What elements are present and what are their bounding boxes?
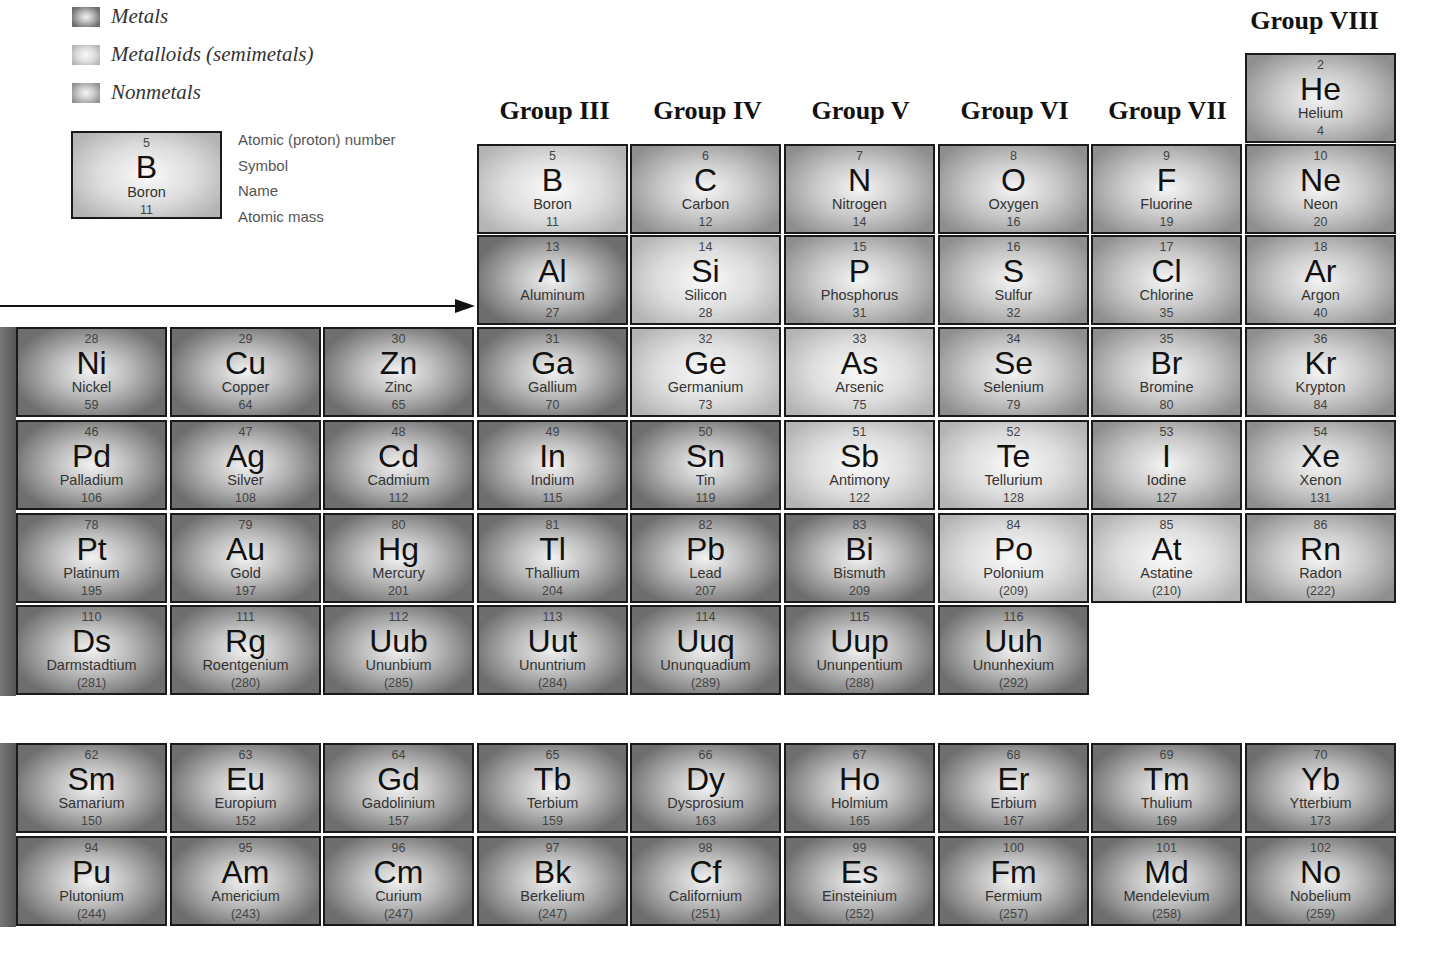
element-cell-kr: 36KrKrypton84 [1245, 327, 1396, 417]
element-name: Antimony [786, 472, 933, 488]
element-name: Carbon [632, 196, 779, 212]
symbol: As [786, 343, 933, 383]
element-name: Krypton [1247, 379, 1394, 395]
element-name: Tin [632, 472, 779, 488]
symbol: Fm [940, 852, 1087, 892]
element-name: Mendelevium [1093, 888, 1240, 904]
element-name: Chlorine [1093, 287, 1240, 303]
symbol: S [940, 251, 1087, 291]
element-name: Cadmium [325, 472, 472, 488]
element-name: Palladium [18, 472, 165, 488]
element-name: Bromine [1093, 379, 1240, 395]
symbol: No [1247, 852, 1394, 892]
atomic-mass: 16 [940, 215, 1087, 229]
element-cell-cm: 96CmCurium(247) [323, 836, 474, 926]
element-cell-uuq: 114UuqUnunquadium(289) [630, 605, 781, 695]
element-name: Ununbium [325, 657, 472, 673]
legend-item-metals: Metals [72, 4, 168, 29]
key-desc-mass: Atomic mass [238, 204, 396, 230]
element-name: Thallium [479, 565, 626, 581]
atomic-mass: 4 [1247, 124, 1394, 138]
atomic-mass: 35 [1093, 306, 1240, 320]
element-cell-eu: 63EuEuropium152 [170, 743, 321, 833]
atomic-mass: 14 [786, 215, 933, 229]
element-name: Californium [632, 888, 779, 904]
key-descriptions: Atomic (proton) number Symbol Name Atomi… [238, 127, 396, 229]
element-cell-hg: 80HgMercury201 [323, 513, 474, 603]
element-name: Neon [1247, 196, 1394, 212]
element-name: Sulfur [940, 287, 1087, 303]
symbol: Tm [1093, 759, 1240, 799]
atomic-mass: 197 [172, 584, 319, 598]
element-name: Tellurium [940, 472, 1087, 488]
symbol: Cu [172, 343, 319, 383]
element-cell-b: 5BBoron11 [477, 144, 628, 234]
element-name: Silicon [632, 287, 779, 303]
symbol: Bi [786, 529, 933, 569]
element-cell-cu: 29CuCopper64 [170, 327, 321, 417]
element-cell-as: 33AsArsenic75 [784, 327, 935, 417]
lanthanide-left-edge [0, 743, 16, 927]
element-cell-ho: 67HoHolmium165 [784, 743, 935, 833]
element-cell-te: 52TeTellurium128 [938, 420, 1089, 510]
atomic-mass: (258) [1093, 907, 1240, 921]
table-left-edge [0, 327, 16, 696]
group-header: Group IV [631, 96, 784, 126]
element-cell-rg: 111RgRoentgenium(280) [170, 605, 321, 695]
element-name: Aluminum [479, 287, 626, 303]
element-cell-cl: 17ClChlorine35 [1091, 235, 1242, 325]
element-cell-pd: 46PdPalladium106 [16, 420, 167, 510]
atomic-mass: (285) [325, 676, 472, 690]
atomic-mass: 65 [325, 398, 472, 412]
element-cell-se: 34SeSelenium79 [938, 327, 1089, 417]
element-name: Fermium [940, 888, 1087, 904]
atomic-mass: 150 [18, 814, 165, 828]
symbol: Cf [632, 852, 779, 892]
atomic-mass: (244) [18, 907, 165, 921]
element-cell-uub: 112UubUnunbium(285) [323, 605, 474, 695]
symbol: Po [940, 529, 1087, 569]
legend-label: Metalloids (semimetals) [111, 42, 313, 67]
symbol: Kr [1247, 343, 1394, 383]
element-name: Erbium [940, 795, 1087, 811]
element-cell-rn: 86RnRadon(222) [1245, 513, 1396, 603]
symbol: Si [632, 251, 779, 291]
atomic-mass: (247) [325, 907, 472, 921]
atomic-mass: (281) [18, 676, 165, 690]
element-name: Ununpentium [786, 657, 933, 673]
element-name: Ununtrium [479, 657, 626, 673]
element-cell-ag: 47AgSilver108 [170, 420, 321, 510]
element-cell-uut: 113UutUnuntrium(284) [477, 605, 628, 695]
element-cell-es: 99EsEinsteinium(252) [784, 836, 935, 926]
key-element-box: 5 B Boron 11 [71, 131, 222, 219]
atomic-mass: 112 [325, 491, 472, 505]
metals-swatch-icon [72, 7, 100, 27]
element-name: Holmium [786, 795, 933, 811]
element-cell-at: 85AtAstatine(210) [1091, 513, 1242, 603]
element-cell-yb: 70YbYtterbium173 [1245, 743, 1396, 833]
symbol: F [1093, 160, 1240, 200]
element-cell-am: 95AmAmericium(243) [170, 836, 321, 926]
element-name: Gallium [479, 379, 626, 395]
atomic-mass: 165 [786, 814, 933, 828]
element-cell-ni: 28NiNickel59 [16, 327, 167, 417]
atomic-mass: 169 [1093, 814, 1240, 828]
symbol: Md [1093, 852, 1240, 892]
element-name: Europium [172, 795, 319, 811]
group-header: Group VI [938, 96, 1091, 126]
symbol: Pt [18, 529, 165, 569]
element-name: Nobelium [1247, 888, 1394, 904]
symbol: Br [1093, 343, 1240, 383]
element-cell-tl: 81TlThallium204 [477, 513, 628, 603]
atomic-mass: (252) [786, 907, 933, 921]
element-name: Germanium [632, 379, 779, 395]
element-cell-bk: 97BkBerkelium(247) [477, 836, 628, 926]
symbol: B [479, 160, 626, 200]
atomic-mass: 127 [1093, 491, 1240, 505]
element-cell-gd: 64GdGadolinium157 [323, 743, 474, 833]
element-cell-n: 7NNitrogen14 [784, 144, 935, 234]
symbol: Al [479, 251, 626, 291]
symbol: Gd [325, 759, 472, 799]
key-desc-number: Atomic (proton) number [238, 127, 396, 153]
element-name: Polonium [940, 565, 1087, 581]
